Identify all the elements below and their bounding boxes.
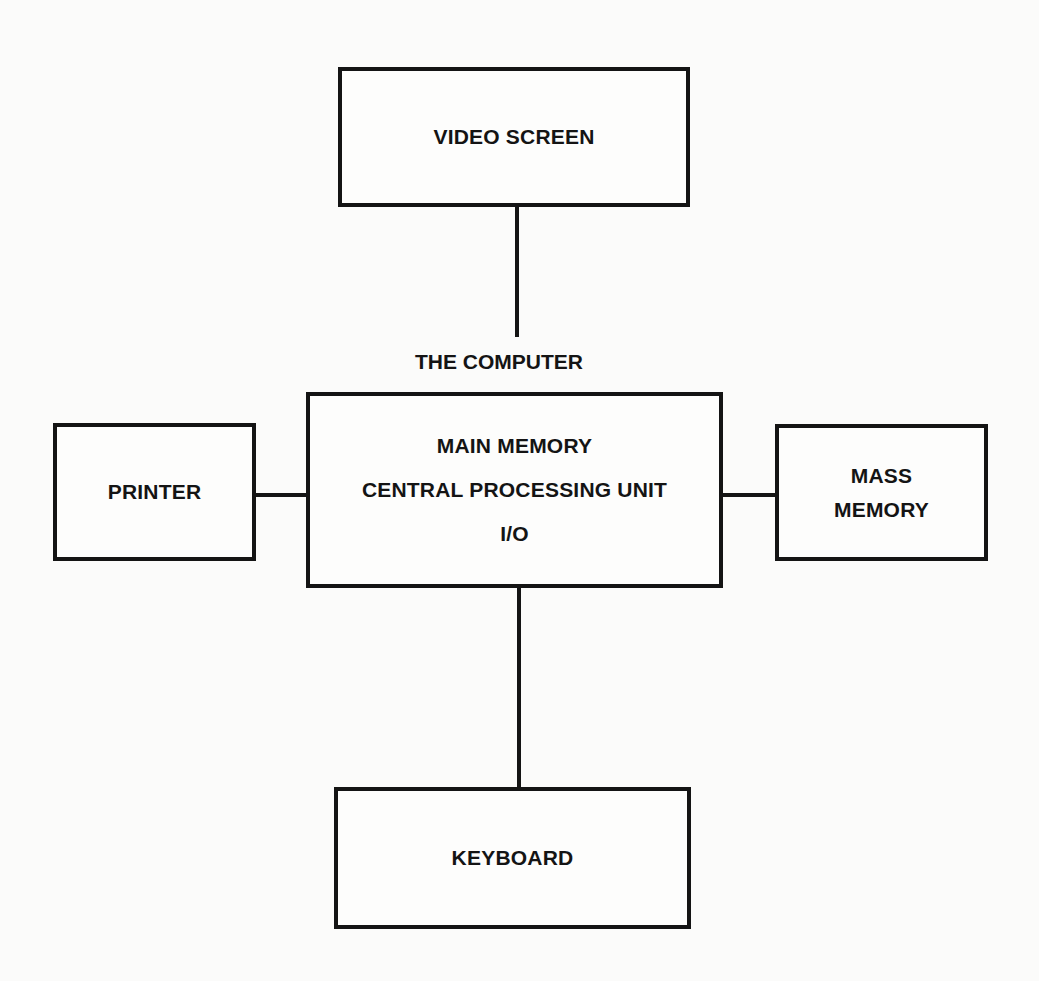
printer-label: PRINTER (108, 479, 202, 505)
io-label: I/O (500, 521, 529, 547)
edge-video-to-computer (515, 205, 519, 337)
computer-title: THE COMPUTER (415, 350, 583, 374)
video-screen-label: VIDEO SCREEN (433, 124, 594, 150)
video-screen-node: VIDEO SCREEN (338, 67, 690, 207)
mass-memory-node: MASS MEMORY (775, 424, 988, 561)
cpu-label: CENTRAL PROCESSING UNIT (362, 477, 667, 503)
edge-computer-to-keyboard (517, 586, 521, 790)
printer-node: PRINTER (53, 423, 256, 561)
keyboard-label: KEYBOARD (452, 845, 574, 871)
main-memory-label: MAIN MEMORY (437, 433, 592, 459)
memory-label: MEMORY (834, 497, 929, 523)
keyboard-node: KEYBOARD (334, 787, 691, 929)
mass-label: MASS (851, 463, 912, 489)
computer-node: MAIN MEMORY CENTRAL PROCESSING UNIT I/O (306, 392, 723, 588)
edge-computer-to-mass-memory (720, 493, 778, 497)
edge-printer-to-computer (253, 493, 309, 497)
